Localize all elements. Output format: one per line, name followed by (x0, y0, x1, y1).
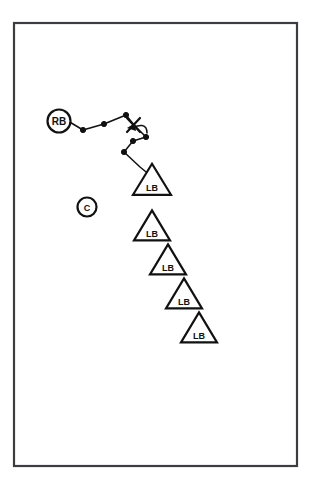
figure-frame-border (14, 23, 297, 466)
track-vertex-dot (123, 112, 128, 117)
lb-2-label: LB (146, 229, 158, 239)
lb-3-label: LB (162, 263, 174, 273)
trajectory-diagram: RBC LBLBLBLBLB (0, 0, 313, 489)
track-vertex-dot (143, 134, 148, 139)
track-vertex-dot (101, 121, 106, 126)
lb-4-label: LB (178, 297, 190, 307)
lb-5-label: LB (193, 331, 205, 341)
track-vertex-dot (80, 127, 85, 132)
lb-1-label: LB (146, 183, 158, 193)
track-vertex-dot (121, 149, 126, 154)
node-rb: RB (48, 110, 71, 133)
rb-label: RB (52, 116, 66, 127)
c-label: C (84, 203, 91, 213)
figure-root: RBC LBLBLBLBLB (0, 0, 313, 489)
node-c: C (78, 198, 97, 217)
track-vertex-dot (130, 138, 135, 143)
